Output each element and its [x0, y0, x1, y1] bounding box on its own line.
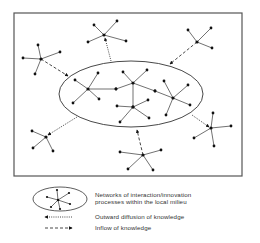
network-node: [32, 147, 35, 150]
network-node: [125, 40, 128, 43]
network-node-cluster: [87, 20, 128, 44]
network-node: [146, 69, 149, 72]
network-node: [147, 99, 150, 102]
network-node: [69, 203, 71, 205]
network-node: [98, 98, 101, 101]
external-networks: [22, 20, 233, 172]
outward-diffusion-arrow: [105, 38, 111, 61]
network-node: [52, 150, 55, 153]
legend-network-icon: [33, 187, 87, 211]
network-hub-node: [86, 87, 89, 90]
network-node: [68, 192, 70, 194]
network-node: [230, 125, 233, 128]
network-node: [187, 84, 190, 87]
network-hub-node: [102, 33, 105, 36]
network-node: [119, 151, 122, 154]
network-node: [212, 112, 215, 115]
network-node: [72, 102, 75, 105]
network-hub-node: [209, 126, 212, 129]
network-node-cluster: [154, 80, 192, 117]
diagram-frame: [14, 13, 242, 176]
legend-networks-line2: processes within the local milieu: [95, 198, 191, 205]
network-node-cluster: [72, 72, 118, 105]
network-node: [187, 29, 190, 32]
network-node: [116, 20, 119, 23]
network-node: [22, 57, 25, 60]
network-node: [148, 117, 151, 120]
network-node: [189, 104, 192, 107]
knowledge-flows: [41, 38, 209, 155]
network-node: [127, 168, 130, 171]
local-milieu-ellipse: [59, 61, 203, 127]
network-node: [93, 24, 96, 27]
outward-diffusion-arrow: [192, 115, 209, 127]
outward-diffusion-arrow: [48, 117, 77, 135]
network-hub-node: [39, 57, 42, 60]
legend-networks-line1: Networks of interaction/innovation: [95, 191, 191, 198]
network-node: [165, 114, 168, 117]
network-node: [46, 196, 48, 198]
legend-networks-label: Networks of interaction/innovation proce…: [95, 191, 191, 205]
legend-inflow-label: Inflow of knowledge: [95, 224, 151, 231]
network-hub-node: [131, 81, 134, 84]
network-node: [50, 206, 52, 208]
network-node-cluster: [31, 130, 55, 153]
milieu-network-diagram: [0, 0, 260, 243]
network-node: [119, 121, 122, 124]
network-node: [74, 79, 77, 82]
network-node: [152, 169, 155, 172]
network-node: [213, 145, 216, 148]
network-node: [97, 72, 100, 75]
network-node: [160, 149, 163, 152]
network-node-cluster: [119, 149, 163, 172]
network-node: [31, 130, 34, 133]
inflow-arrow: [137, 130, 143, 155]
network-hub-node: [141, 153, 144, 156]
network-node: [59, 51, 62, 54]
legend-outward-label: Outward diffusion of knowledge: [95, 213, 184, 220]
network-node: [116, 105, 119, 108]
network-node: [163, 80, 166, 83]
inflow-arrow: [170, 42, 197, 64]
network-node: [34, 73, 37, 76]
network-hub-node: [44, 135, 47, 138]
network-node-cluster: [22, 44, 62, 76]
network-node-cluster: [46, 189, 71, 210]
network-node: [154, 90, 157, 93]
inflow-arrow: [41, 59, 68, 76]
inner-networks: [72, 69, 192, 124]
network-hub-node: [57, 199, 59, 201]
network-hub-node: [171, 96, 174, 99]
network-node-cluster: [115, 69, 157, 109]
network-node: [56, 189, 58, 191]
network-node: [115, 88, 118, 91]
network-node: [37, 44, 40, 47]
network-node-cluster: [193, 112, 233, 148]
network-node: [193, 137, 196, 140]
network-node: [59, 208, 61, 210]
network-node-cluster: [187, 27, 214, 50]
network-node: [210, 27, 213, 30]
network-node: [87, 41, 90, 44]
network-hub-node: [195, 40, 198, 43]
network-node: [122, 71, 125, 74]
network-hub-node: [131, 105, 134, 108]
network-node: [211, 47, 214, 50]
